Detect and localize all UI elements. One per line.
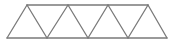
truss-diagonal <box>68 5 88 38</box>
truss-chords <box>7 5 167 38</box>
truss-diagonal <box>27 5 47 38</box>
truss-diagonal <box>148 5 167 38</box>
truss-diagonals <box>7 5 167 38</box>
truss-diagram <box>0 0 185 52</box>
truss-diagonal <box>108 5 128 38</box>
truss-diagonal <box>128 5 148 38</box>
truss-diagonal <box>7 5 27 38</box>
truss-svg <box>0 0 185 52</box>
truss-diagonal <box>88 5 108 38</box>
truss-diagonal <box>47 5 68 38</box>
